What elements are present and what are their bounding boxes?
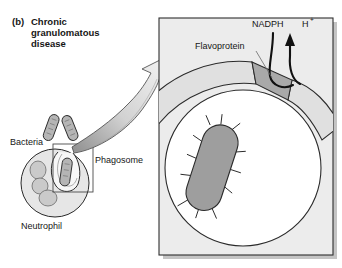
chronic-granulomatous-disease-figure: (b) Chronic granulomatous disease Bacte (0, 0, 342, 268)
phagosome-lumen (165, 90, 321, 246)
flavoprotein-label: Flavoprotein (195, 41, 245, 51)
neutrophil-cell (21, 149, 89, 217)
title-line-3: disease (31, 38, 66, 49)
proton-charge-label: + (310, 16, 314, 23)
bacteria-free (42, 113, 80, 142)
neutrophil-scene: Bacteria Neutroph (10, 113, 143, 231)
magnify-arrow-icon (72, 58, 169, 153)
panel-title: (b) Chronic granulomatous disease (12, 16, 100, 49)
nadph-label: NADPH (252, 19, 284, 29)
neutrophil-label: Neutrophil (21, 221, 62, 231)
title-line-1: Chronic (31, 16, 67, 27)
title-line-2: granulomatous (31, 27, 100, 38)
panel-letter: (b) (12, 16, 24, 27)
magnified-phagosome-panel: Flavoprotein NADPH H + (140, 16, 340, 259)
proton-label: H (302, 19, 309, 29)
phagosome-label: Phagosome (95, 155, 143, 165)
bacteria-label: Bacteria (10, 137, 43, 147)
